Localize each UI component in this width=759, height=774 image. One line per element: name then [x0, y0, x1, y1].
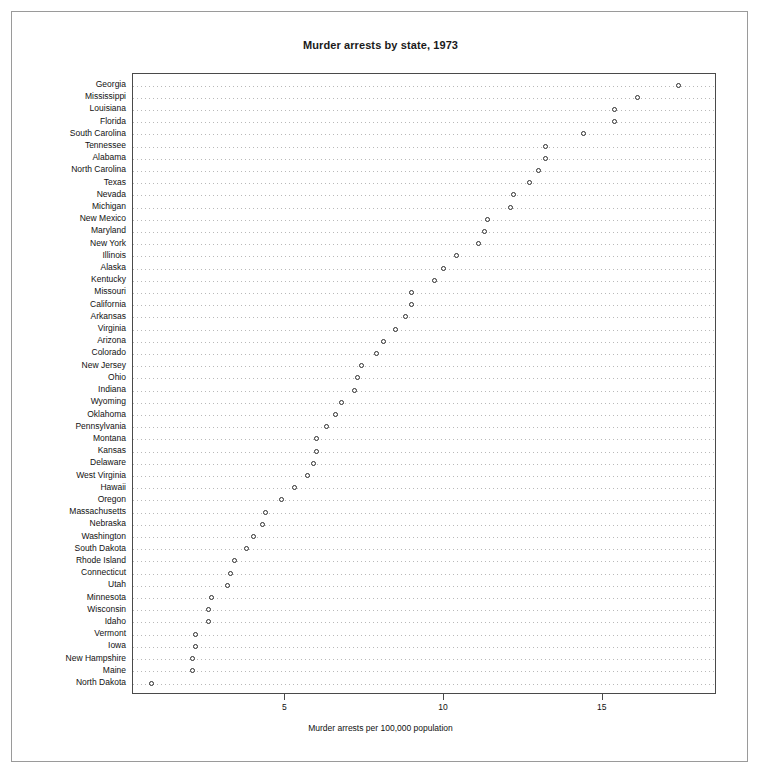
data-point[interactable] — [311, 461, 316, 466]
data-point[interactable] — [527, 180, 532, 185]
gridline — [133, 354, 715, 355]
gridline — [133, 281, 715, 282]
gridline — [133, 256, 715, 257]
gridline — [133, 549, 715, 550]
y-axis-label-connecticut: Connecticut — [81, 568, 126, 577]
data-point[interactable] — [232, 558, 237, 563]
data-point[interactable] — [381, 339, 386, 344]
data-point[interactable] — [476, 241, 481, 246]
data-point[interactable] — [482, 229, 487, 234]
data-point[interactable] — [432, 278, 437, 283]
y-axis-label-new-york: New York — [90, 239, 126, 248]
y-axis-label-alabama: Alabama — [92, 153, 126, 162]
data-point[interactable] — [206, 619, 211, 624]
data-point[interactable] — [581, 131, 586, 136]
gridline — [133, 622, 715, 623]
y-axis-label-michigan: Michigan — [92, 202, 126, 211]
data-point[interactable] — [324, 424, 329, 429]
data-point[interactable] — [536, 168, 541, 173]
data-point[interactable] — [339, 400, 344, 405]
y-axis-label-illinois: Illinois — [102, 251, 126, 260]
data-point[interactable] — [251, 534, 256, 539]
data-point[interactable] — [403, 314, 408, 319]
data-point[interactable] — [409, 302, 414, 307]
data-point[interactable] — [635, 95, 640, 100]
y-axis-label-washington: Washington — [81, 532, 126, 541]
gridline — [133, 305, 715, 306]
y-axis-label-kansas: Kansas — [98, 446, 126, 455]
data-point[interactable] — [314, 449, 319, 454]
data-point[interactable] — [190, 656, 195, 661]
data-point[interactable] — [333, 412, 338, 417]
y-axis-label-alaska: Alaska — [100, 263, 126, 272]
gridline — [133, 159, 715, 160]
y-axis-label-delaware: Delaware — [90, 458, 126, 467]
figure-panel: Murder arrests by state, 1973 GeorgiaMis… — [11, 11, 748, 762]
data-point[interactable] — [260, 522, 265, 527]
data-point[interactable] — [314, 436, 319, 441]
gridline — [133, 439, 715, 440]
y-axis-label-south-carolina: South Carolina — [70, 129, 126, 138]
gridline — [133, 391, 715, 392]
data-point[interactable] — [209, 595, 214, 600]
gridline — [133, 366, 715, 367]
gridline — [133, 488, 715, 489]
data-point[interactable] — [263, 510, 268, 515]
gridline — [133, 220, 715, 221]
gridline — [133, 147, 715, 148]
y-axis-label-kentucky: Kentucky — [91, 275, 126, 284]
y-axis-label-texas: Texas — [104, 178, 126, 187]
y-axis-label-iowa: Iowa — [108, 641, 126, 650]
y-axis-label-south-dakota: South Dakota — [74, 544, 126, 553]
data-point[interactable] — [409, 290, 414, 295]
gridline — [133, 110, 715, 111]
gridline — [133, 537, 715, 538]
y-axis-label-florida: Florida — [100, 117, 126, 126]
data-point[interactable] — [279, 497, 284, 502]
data-point[interactable] — [190, 668, 195, 673]
data-point[interactable] — [508, 205, 513, 210]
y-axis-label-north-carolina: North Carolina — [71, 165, 126, 174]
data-point[interactable] — [543, 156, 548, 161]
y-axis-label-utah: Utah — [108, 580, 126, 589]
gridline — [133, 330, 715, 331]
y-axis-label-ohio: Ohio — [108, 373, 126, 382]
gridline — [133, 561, 715, 562]
data-point[interactable] — [454, 253, 459, 258]
data-point[interactable] — [511, 192, 516, 197]
gridline — [133, 403, 715, 404]
data-point[interactable] — [149, 681, 154, 686]
data-point[interactable] — [225, 583, 230, 588]
gridline — [133, 134, 715, 135]
data-point[interactable] — [612, 119, 617, 124]
data-point[interactable] — [543, 144, 548, 149]
y-axis-label-north-dakota: North Dakota — [76, 678, 126, 687]
data-point[interactable] — [612, 107, 617, 112]
data-point[interactable] — [206, 607, 211, 612]
data-point[interactable] — [374, 351, 379, 356]
y-axis-label-oklahoma: Oklahoma — [87, 410, 126, 419]
data-point[interactable] — [441, 266, 446, 271]
y-axis-label-hawaii: Hawaii — [100, 483, 126, 492]
y-axis-label-arkansas: Arkansas — [91, 312, 126, 321]
y-axis-label-nevada: Nevada — [97, 190, 126, 199]
gridline — [133, 574, 715, 575]
gridline — [133, 500, 715, 501]
gridline — [133, 427, 715, 428]
data-point[interactable] — [305, 473, 310, 478]
y-axis-label-oregon: Oregon — [98, 495, 126, 504]
gridline — [133, 659, 715, 660]
data-point[interactable] — [359, 363, 364, 368]
gridline — [133, 98, 715, 99]
data-point[interactable] — [355, 375, 360, 380]
y-axis-label-new-hampshire: New Hampshire — [66, 654, 126, 663]
gridline — [133, 293, 715, 294]
data-point[interactable] — [352, 388, 357, 393]
y-axis-label-maryland: Maryland — [91, 226, 126, 235]
data-point[interactable] — [244, 546, 249, 551]
data-point[interactable] — [292, 485, 297, 490]
data-point[interactable] — [676, 83, 681, 88]
y-axis-label-vermont: Vermont — [94, 629, 126, 638]
data-point[interactable] — [193, 644, 198, 649]
gridline — [133, 208, 715, 209]
